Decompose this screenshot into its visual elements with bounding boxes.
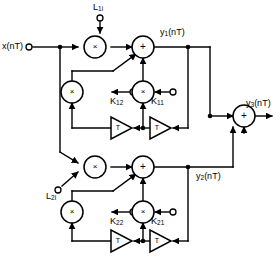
label-K22: K22 bbox=[110, 217, 123, 227]
terminal-x-input[interactable] bbox=[26, 44, 32, 50]
signal-flow-diagram: × × × × × × + + + T T T T x(nT) L1i L2i … bbox=[0, 0, 280, 257]
multiply-glyph-L2i: × bbox=[88, 163, 102, 171]
label-K11: K11 bbox=[151, 97, 164, 107]
multiply-glyph-K11: × bbox=[136, 88, 150, 96]
delay-glyph-22: T bbox=[113, 237, 123, 244]
label-L1i: L1i bbox=[93, 3, 103, 13]
label-K21: K21 bbox=[151, 217, 164, 227]
wire-K12-diag-to-add1 bbox=[113, 54, 136, 71]
multiply-glyph-K12: × bbox=[65, 88, 79, 96]
junction-y1 bbox=[186, 45, 191, 50]
junction-delay-lower bbox=[141, 239, 146, 244]
label-L2i: L2i bbox=[46, 192, 56, 202]
junction-y1-sum bbox=[208, 114, 213, 119]
label-x-input: x(nT) bbox=[2, 42, 23, 51]
terminal-K11-input[interactable] bbox=[170, 89, 176, 95]
add-glyph-output: + bbox=[237, 111, 251, 121]
terminal-L1i-input[interactable] bbox=[97, 15, 103, 21]
label-y3-output: y3(nT) bbox=[246, 99, 271, 109]
delay-glyph-11: T bbox=[152, 124, 162, 131]
delay-glyph-21: T bbox=[152, 237, 162, 244]
label-K12-sub: 12 bbox=[116, 99, 123, 106]
label-y2-arg: (nT) bbox=[204, 171, 221, 181]
label-K21-sub: 21 bbox=[157, 219, 164, 226]
label-K11-sub: 11 bbox=[157, 99, 164, 106]
label-K22-sub: 22 bbox=[116, 219, 123, 226]
delay-glyph-12: T bbox=[113, 124, 123, 131]
multiply-glyph-K21: × bbox=[136, 208, 150, 216]
add-glyph-section2: + bbox=[136, 162, 150, 172]
label-y2-output: y2(nT) bbox=[196, 172, 221, 182]
wire-L2i-to-mult2 bbox=[62, 172, 78, 186]
junction-y2 bbox=[186, 165, 191, 170]
add-glyph-section1: + bbox=[136, 42, 150, 52]
diagram-canvas bbox=[0, 0, 280, 257]
label-K12: K12 bbox=[110, 97, 123, 107]
junction-delay-upper bbox=[141, 126, 146, 131]
delay-elements bbox=[111, 117, 171, 252]
multiply-glyph-L1i: × bbox=[88, 43, 102, 51]
junction-x bbox=[58, 45, 63, 50]
multiplier-nodes bbox=[61, 36, 154, 223]
wire-K22-diag-to-add2 bbox=[113, 174, 136, 191]
multiply-glyph-K22: × bbox=[65, 208, 79, 216]
label-L1i-sub: 1i bbox=[98, 5, 103, 12]
terminal-K21-input[interactable] bbox=[170, 209, 176, 215]
label-L2i-sub: 2i bbox=[51, 194, 56, 201]
label-y1-output: y1(nT) bbox=[160, 28, 185, 38]
label-y3-arg: (nT) bbox=[254, 98, 271, 108]
label-y1-arg: (nT) bbox=[168, 27, 185, 37]
label-x-text: x(nT) bbox=[2, 41, 23, 51]
wire-x-diag-to-mult2 bbox=[60, 152, 78, 163]
adder-nodes bbox=[132, 36, 255, 178]
